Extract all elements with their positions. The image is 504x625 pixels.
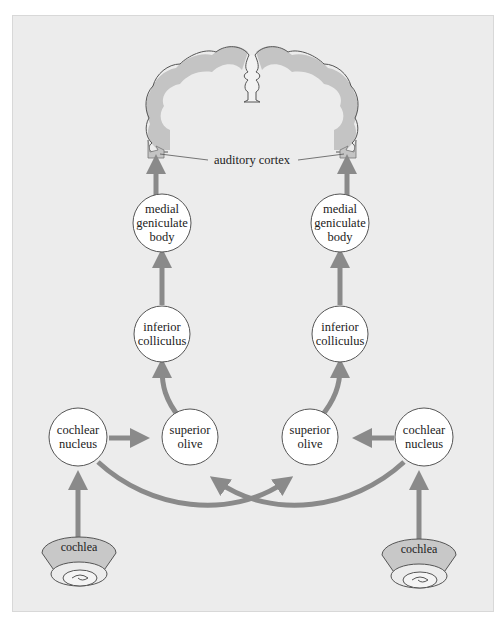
left-mgb-label: medial geniculate body [136, 202, 187, 244]
left-cochlea-label: cochlea [61, 540, 98, 555]
right-mgb-label: medial geniculate body [314, 202, 365, 244]
auditory-cortex-label: auditory cortex [214, 153, 290, 168]
brain-icon [146, 46, 358, 160]
left-ic-label: inferior colliculus [138, 320, 187, 348]
arrow-right-cn-to-left-so [218, 462, 404, 505]
auditory-pathway-diagram [0, 0, 504, 625]
left-so-label: superior olive [170, 423, 211, 451]
left-cn-label: cochlear nucleus [57, 423, 99, 451]
right-cn-label: cochlear nucleus [403, 423, 445, 451]
right-ic-label: inferior colliculus [316, 320, 365, 348]
right-so-label: superior olive [290, 423, 331, 451]
arrow-left-so-to-ic [162, 368, 180, 418]
right-cochlea-label: cochlea [401, 542, 438, 557]
nodes [49, 194, 453, 466]
arrow-right-so-to-ic [320, 368, 340, 418]
